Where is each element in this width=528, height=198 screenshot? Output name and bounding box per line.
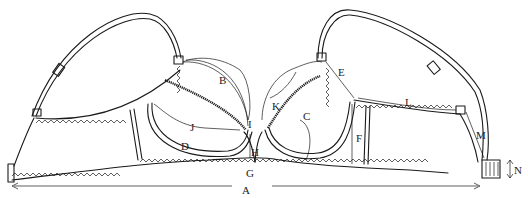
- left-strap: [32, 13, 183, 116]
- left-cup: [148, 58, 252, 156]
- label-F: F: [356, 132, 362, 144]
- band: [8, 70, 500, 182]
- label-J: J: [190, 121, 195, 133]
- label-K: K: [272, 100, 280, 112]
- bra-measurement-diagram: A B C D E F G H I J K L M N: [0, 0, 528, 198]
- label-I: I: [248, 118, 252, 130]
- right-strap: [317, 10, 488, 160]
- label-L: L: [405, 96, 412, 108]
- label-M: M: [476, 129, 486, 141]
- label-E: E: [338, 66, 345, 78]
- label-C: C: [303, 110, 310, 122]
- label-A: A: [242, 184, 250, 196]
- label-H: H: [251, 146, 259, 158]
- label-N: N: [514, 164, 522, 176]
- hook-closure: [482, 160, 500, 178]
- label-G: G: [246, 167, 254, 179]
- measurement-guides: [12, 60, 513, 189]
- label-D: D: [181, 140, 189, 152]
- label-B: B: [219, 74, 226, 86]
